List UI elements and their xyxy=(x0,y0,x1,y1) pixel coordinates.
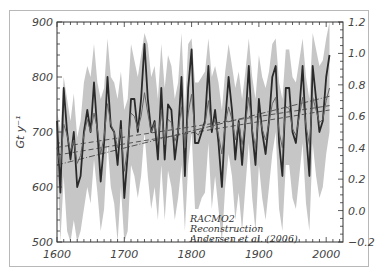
x-tick-label: 2000 xyxy=(312,248,340,261)
legend-line-3: Andersen et al. (2006) xyxy=(189,233,298,244)
y-tick-label-left: 600 xyxy=(32,181,53,194)
y-tick-label-left: 900 xyxy=(32,16,53,29)
chart-canvas: 16001700180019002000500600700800900−0.20… xyxy=(0,0,381,277)
y-axis-label: Gt y⁻¹ xyxy=(14,115,27,148)
y-tick-label-right: 0.8 xyxy=(348,79,366,92)
y-tick-label-right: 1.0 xyxy=(348,47,366,60)
y-tick-label-left: 800 xyxy=(32,71,53,84)
y-tick-label-right: 0.4 xyxy=(348,142,366,155)
y-tick-label-left: 700 xyxy=(32,126,53,139)
x-tick-label: 1700 xyxy=(110,248,138,261)
x-tick-label: 1800 xyxy=(178,248,206,261)
y-tick-label-right: 0.2 xyxy=(348,173,366,186)
y-tick-label-right: −0.2 xyxy=(348,236,375,249)
y-tick-label-left: 500 xyxy=(32,236,53,249)
y-tick-label-right: 0.6 xyxy=(348,110,366,123)
y-tick-label-right: 1.2 xyxy=(348,16,366,29)
x-tick-label: 1900 xyxy=(245,248,273,261)
x-tick-label: 1600 xyxy=(43,248,71,261)
y-tick-label-right: 0.0 xyxy=(348,205,366,218)
